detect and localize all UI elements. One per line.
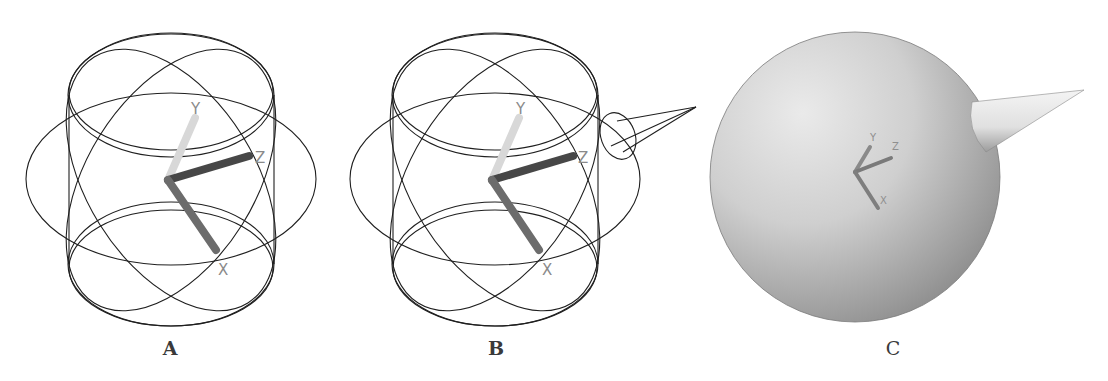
panel-label-c: C [873, 337, 913, 359]
axis-label-x: X [218, 261, 228, 279]
axis-label-y: Y [190, 100, 201, 118]
axis-label-z: Z [578, 149, 588, 167]
gimbal-wireframe-b: Y Z X [340, 0, 710, 330]
gimbal-wireframe-a: Y Z X [0, 0, 340, 330]
sphere [710, 32, 1000, 322]
cone-spike [971, 90, 1084, 152]
shaded-sphere-with-cone: Y Z X [700, 0, 1108, 330]
cone-wireframe [594, 107, 696, 164]
axis-label-y: Y [869, 132, 877, 143]
axis-tripod-b [492, 118, 573, 250]
panel-b: Y Z X B [340, 0, 710, 381]
axis-label-x: X [542, 261, 552, 279]
panel-label-b: B [476, 337, 516, 359]
axis-label-z: Z [892, 141, 899, 152]
axis-label-z: Z [255, 149, 265, 167]
axis-label-x: X [880, 195, 887, 206]
axis-tripod-a [168, 118, 249, 250]
axis-label-y: Y [515, 100, 526, 118]
panel-a: Y Z X A [0, 0, 340, 381]
panel-label-a: A [150, 337, 190, 359]
panel-c: Y Z X C [700, 0, 1108, 381]
